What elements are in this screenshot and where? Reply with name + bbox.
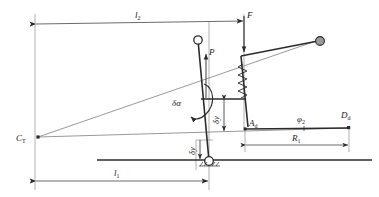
diagram-canvas: l2 l1 R1 (0, 0, 379, 197)
dimension-label-R1: R1 (291, 133, 301, 144)
dimension-l1: l1 (36, 168, 208, 181)
dimension-R1: R1 (246, 133, 348, 145)
dimension-line-l2 (36, 21, 243, 24)
label-phi2: φ2 (297, 114, 305, 125)
dimension-l2: l2 (36, 10, 243, 24)
kinematic-diagram-svg: l2 l1 R1 (0, 0, 379, 197)
construction-lines (35, 14, 349, 190)
dimension-delta-y-upper: δy (211, 100, 224, 131)
node-Ad (244, 127, 247, 130)
lower-link-Ad-Dd (245, 128, 349, 129)
node-CT (36, 135, 39, 138)
coil-spring (238, 64, 247, 98)
force-label-P: P (208, 47, 215, 57)
dimension-delta-y-lower: δy (187, 140, 200, 159)
right-vertical-member (241, 56, 248, 127)
label-Dd: Dd (340, 110, 351, 121)
force-label-F: F (246, 10, 253, 20)
dimension-label-l2: l2 (135, 10, 141, 21)
ground-hinge-node (205, 157, 214, 166)
dimension-label-delta-y-lower: δy (187, 147, 197, 155)
label-Ad: Ad (248, 118, 258, 129)
dimension-label-l1: l1 (114, 168, 120, 179)
right-arm-node (316, 37, 325, 46)
node-Dd (347, 126, 350, 129)
angle-label-delta-alpha: δα (172, 98, 181, 108)
ray-to-Dd (38, 128, 349, 137)
dimension-label-delta-y-upper: δy (211, 116, 221, 124)
ray-to-upper-right-node (38, 41, 316, 137)
label-CT: CT (16, 133, 26, 144)
top-pivot-node (194, 36, 202, 44)
